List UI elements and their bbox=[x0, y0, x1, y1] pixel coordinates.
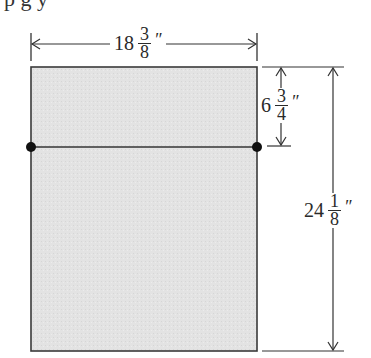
height-dimension-label: 24 1 8 ″ bbox=[302, 193, 354, 228]
partial-height-dimension-label: 6 3 4 ″ bbox=[259, 88, 301, 123]
dimension-diagram bbox=[0, 0, 371, 358]
shaded-rectangle bbox=[31, 67, 257, 351]
width-dimension-label: 18 3 8 ″ bbox=[110, 26, 166, 61]
right-dot bbox=[252, 142, 262, 152]
left-dot bbox=[26, 142, 36, 152]
